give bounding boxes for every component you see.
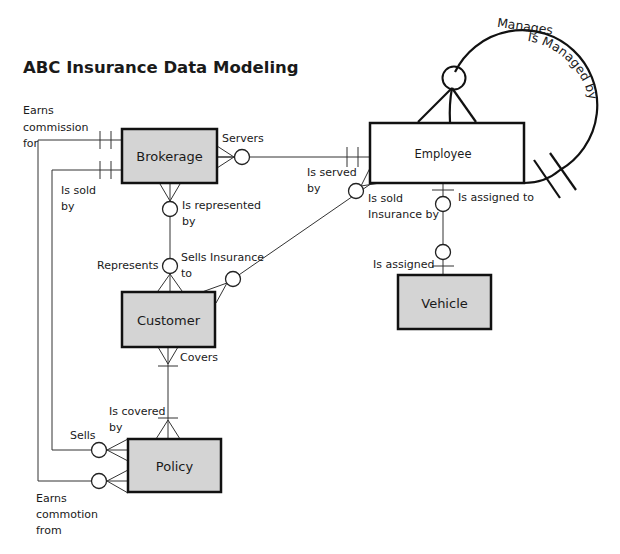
entity-label: Employee (415, 147, 472, 161)
label-is-managed-by-path: Is Managed by (527, 29, 601, 101)
label-sells-insurance-to: to (181, 267, 192, 280)
label-is-represented-by: by (182, 215, 196, 228)
entity-label: Brokerage (136, 149, 203, 164)
label-manages: Manages (496, 15, 554, 38)
label-is-served-by: by (307, 182, 321, 195)
label-is-assigned: Is assigned (373, 258, 434, 271)
entity-policy[interactable]: Policy (128, 439, 221, 492)
entity-vehicle[interactable]: Vehicle (398, 275, 491, 329)
label-is-assigned-to: Is assigned to (458, 191, 534, 204)
rel-assigned (432, 183, 454, 275)
optional-circle-icon (226, 272, 241, 287)
optional-circle-icon (235, 150, 250, 165)
label-is-managed-by: Is Managed by (527, 29, 601, 101)
optional-circle-icon (163, 259, 178, 274)
label-earns-commotion-from: Earns (36, 492, 67, 505)
label-represents: Represents (97, 259, 159, 272)
optional-circle-icon (443, 67, 466, 90)
label-earns-commission: for (23, 137, 39, 150)
rel-serves (216, 146, 370, 168)
diagram-title: ABC Insurance Data Modeling (23, 58, 299, 77)
label-servers: Servers (222, 132, 264, 145)
label-is-sold-insurance-by: Is sold (368, 192, 403, 205)
label-is-covered-by: Is covered (109, 405, 166, 418)
label-is-sold-by: by (61, 200, 75, 213)
rel-represents (158, 184, 182, 291)
optional-circle-icon (436, 245, 451, 260)
label-is-served-by: Is served (307, 166, 357, 179)
label-earns-commotion-from: commotion (36, 508, 98, 521)
entity-label: Vehicle (421, 296, 468, 311)
optional-circle-icon (163, 202, 178, 217)
label-is-sold-by: Is sold (61, 184, 96, 197)
optional-circle-icon (92, 474, 107, 489)
optional-circle-icon (92, 443, 107, 458)
rel-sells-insurance (202, 168, 380, 303)
label-covers: Covers (180, 351, 218, 364)
entity-label: Customer (137, 313, 201, 328)
label-is-sold-insurance-by: Insurance by (368, 208, 439, 221)
label-earns-commotion-from: from (36, 524, 62, 537)
entity-label: Policy (156, 459, 194, 474)
label-is-represented-by: Is represented (182, 199, 261, 212)
entity-employee[interactable]: Employee (370, 123, 524, 183)
label-sells-insurance-to: Sells Insurance (181, 251, 264, 264)
entity-customer[interactable]: Customer (122, 292, 215, 347)
label-earns-commission: commission (23, 121, 89, 134)
er-diagram: ABC Insurance Data Modeling (0, 0, 620, 554)
label-is-covered-by: by (109, 421, 123, 434)
entity-brokerage[interactable]: Brokerage (122, 129, 217, 183)
rel-covers (156, 347, 180, 439)
label-sells: Sells (70, 429, 96, 442)
label-earns-commission: Earns (23, 104, 54, 117)
